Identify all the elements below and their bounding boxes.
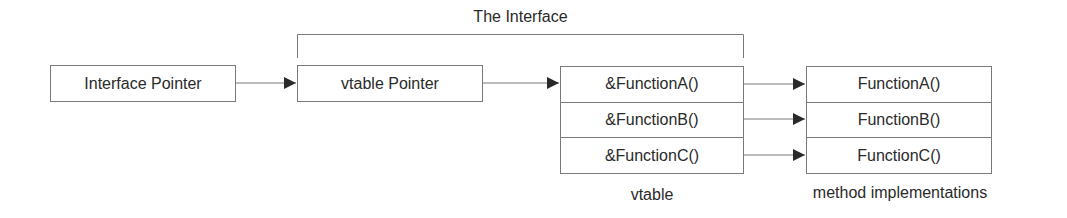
vtable-entry-a: &FunctionA() <box>561 67 743 103</box>
method-function-a: FunctionA() <box>807 67 991 103</box>
method-function-b: FunctionB() <box>807 103 991 139</box>
method-implementations-caption: method implementations <box>790 184 1010 202</box>
method-function-c: FunctionC() <box>807 138 991 174</box>
vtable-caption: vtable <box>560 186 744 204</box>
method-implementations: FunctionA() FunctionB() FunctionC() <box>806 66 992 174</box>
interface-title: The Interface <box>297 8 744 26</box>
vtable-entry-b: &FunctionB() <box>561 103 743 139</box>
vtable-pointer-box: vtable Pointer <box>297 65 483 102</box>
vtable: &FunctionA() &FunctionB() &FunctionC() <box>560 66 744 174</box>
interface-pointer-box: Interface Pointer <box>50 65 236 102</box>
interface-bracket <box>298 35 744 59</box>
vtable-entry-c: &FunctionC() <box>561 138 743 174</box>
